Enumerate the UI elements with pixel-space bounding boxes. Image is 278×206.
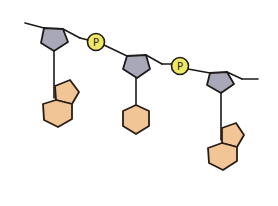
phosphate-2: P	[172, 58, 189, 75]
backbone-bond-sugar1-p1b	[80, 38, 88, 40]
diagram-canvas: P P	[0, 0, 278, 206]
sugar-pentagon-2	[123, 55, 150, 78]
nucleotide-1	[41, 28, 79, 127]
sugar-pentagon-3	[207, 72, 234, 93]
backbone-bond-start	[25, 23, 44, 28]
phosphate-1: P	[88, 34, 105, 51]
sugar-pentagon-1	[41, 28, 68, 51]
nucleotide-3	[207, 72, 244, 170]
phosphate-label-2: P	[177, 61, 183, 72]
purine-six-ring-3	[208, 143, 237, 170]
purine-six-ring-1	[43, 100, 72, 127]
backbone-bond-p1-sugar2	[104, 45, 127, 56]
pyrimidine-ring-2	[123, 105, 149, 134]
phosphate-label-1: P	[93, 37, 99, 48]
backbone-bond-p2-sugar3	[188, 69, 210, 73]
nucleotide-2	[123, 55, 150, 134]
nucleic-acid-diagram: P P	[0, 0, 278, 206]
